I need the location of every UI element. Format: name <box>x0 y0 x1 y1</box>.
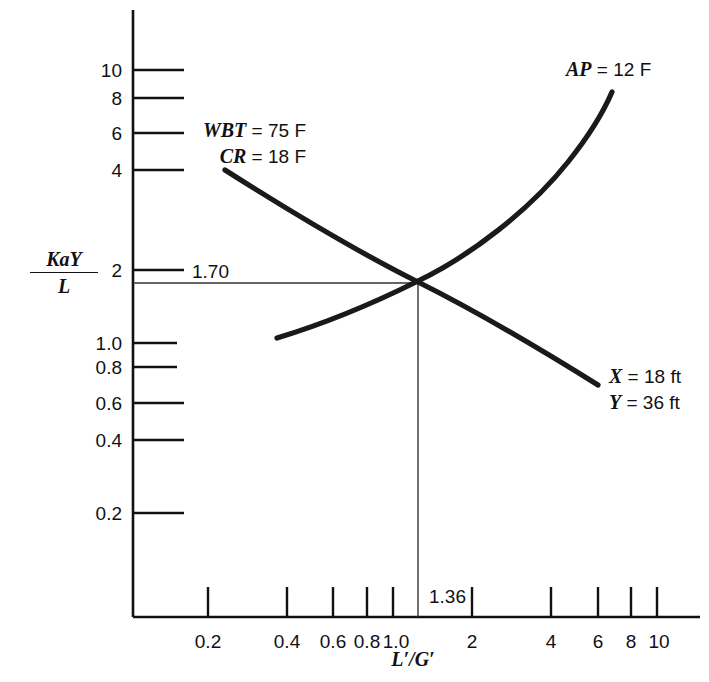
ap-annotation: AP = 12 F <box>566 57 651 83</box>
y-tick-label-6: 6 <box>62 124 122 143</box>
tower-characteristic-curve <box>277 92 612 338</box>
y-tick-label-0-2: 0.2 <box>52 504 122 523</box>
demand-curve <box>225 170 598 385</box>
y-tick-label-1-0: 1.0 <box>52 334 122 353</box>
y-tick-label-0-6: 0.6 <box>52 394 122 413</box>
x-value-readout: 1.36 <box>429 586 466 608</box>
x-dimension-value: = 18 ft <box>622 366 681 387</box>
cr-symbol: CR <box>220 145 247 167</box>
ap-symbol: AP <box>566 58 592 80</box>
chart-figure: KaY L L′/G′ 10 8 6 4 2 1.0 0.8 0.6 0.4 0… <box>0 0 709 682</box>
y-tick-label-8: 8 <box>62 89 122 108</box>
y-value-readout: 1.70 <box>192 261 229 283</box>
y-tick-label-0-4: 0.4 <box>52 431 122 450</box>
cr-value: = 18 F <box>246 146 306 167</box>
cr-annotation: CR = 18 F <box>154 144 306 170</box>
wbt-annotation: WBT = 75 F <box>154 118 306 144</box>
y-dimension-annotation: Y = 36 ft <box>609 390 681 416</box>
y-tick-label-0-8: 0.8 <box>52 358 122 377</box>
wbt-cr-annotation-block: WBT = 75 F CR = 18 F <box>154 118 306 169</box>
y-tick-label-4: 4 <box>62 161 122 180</box>
xy-dimension-annotation-block: X = 18 ft Y = 36 ft <box>609 364 681 415</box>
y-dimension-value: = 36 ft <box>621 392 680 413</box>
y-tick-label-2: 2 <box>62 261 122 280</box>
x-tick-label-0-2: 0.2 <box>178 632 238 651</box>
wbt-symbol: WBT <box>203 119 246 141</box>
x-tick-label-2: 2 <box>442 632 502 651</box>
y-tick-label-10: 10 <box>62 61 122 80</box>
x-dimension-annotation: X = 18 ft <box>609 364 681 390</box>
ap-value: = 12 F <box>592 59 652 80</box>
x-dimension-symbol: X <box>609 365 622 387</box>
x-tick-label-1-0: 1.0 <box>366 632 426 651</box>
y-dimension-symbol: Y <box>609 391 621 413</box>
x-tick-label-10: 10 <box>629 632 689 651</box>
wbt-value: = 75 F <box>246 120 306 141</box>
